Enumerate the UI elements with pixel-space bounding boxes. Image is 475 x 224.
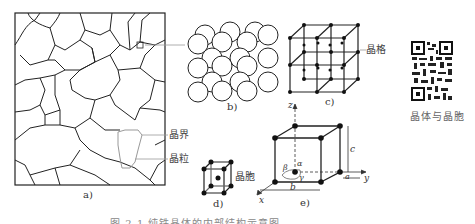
annotation-leaders <box>135 42 185 159</box>
figure-caption: 图 2-1 纯铁晶体的内部结构示意图 <box>110 215 280 224</box>
grain-boundary-label: 晶界 <box>169 130 189 140</box>
panel-c-lattice <box>290 25 358 92</box>
param-alpha-label: α <box>297 160 302 168</box>
panel-b-spheres <box>188 22 278 102</box>
qr-caption: 晶体与晶胞 <box>410 108 465 123</box>
param-b-label: b <box>290 183 296 192</box>
panel-a-label: a) <box>83 190 93 200</box>
unit-cell-label: 晶胞 <box>235 172 255 182</box>
lattice-label: 晶格 <box>366 45 386 55</box>
z-axis-label: z <box>288 101 293 110</box>
param-c-label: c <box>350 145 355 154</box>
panel-e-label: e) <box>300 198 310 208</box>
panel-b-label: b) <box>227 102 237 112</box>
x-axis-label: x <box>259 196 264 205</box>
figure-canvas <box>0 0 475 224</box>
param-gamma-label: γ <box>299 174 304 182</box>
grain-label: 晶粒 <box>169 154 189 164</box>
panel-d-label: d) <box>213 199 223 209</box>
param-beta-label: β <box>283 164 288 172</box>
panel-c-label: c) <box>325 97 335 107</box>
panel-e-unit-cell <box>275 126 340 182</box>
qr-code <box>410 40 454 104</box>
param-a-label: a <box>345 173 350 181</box>
y-axis-label: y <box>364 174 369 183</box>
